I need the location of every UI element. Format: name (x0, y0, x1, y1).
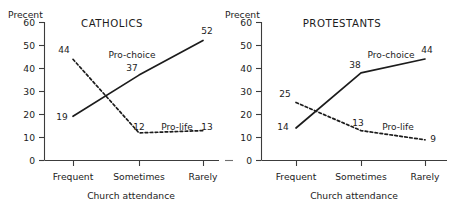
chart-panel-protestants: Precent PROTESTANTS 60 50 40 30 20 1 (225, 0, 450, 209)
y-tick-40: 40 (240, 63, 252, 74)
series-label-pro-life: Pro-life (382, 122, 414, 132)
y-axis-ticks (39, 23, 45, 161)
value-label-pro-choice-frequent: 14 (277, 122, 289, 132)
y-tick-60: 60 (240, 17, 252, 28)
x-axis-ticks (297, 161, 426, 167)
value-label-pro-choice-sometimes: 37 (126, 63, 137, 73)
value-label-pro-life-sometimes: 13 (352, 118, 363, 128)
panel-title-protestants: PROTESTANTS (303, 18, 382, 29)
value-label-pro-choice-rarely: 52 (201, 26, 212, 36)
y-tick-0: 0 (246, 155, 252, 166)
x-label-frequent: Frequent (53, 171, 94, 182)
y-axis-tick-labels: 60 50 40 30 20 10 0 (23, 17, 35, 166)
y-tick-10: 10 (23, 132, 35, 143)
x-label-rarely: Rarely (188, 171, 218, 182)
y-tick-0: 0 (29, 155, 35, 166)
series-label-pro-choice: Pro-choice (109, 50, 156, 60)
x-label-frequent: Frequent (276, 171, 317, 182)
value-label-pro-choice-rarely: 44 (421, 45, 433, 55)
value-label-pro-life-rarely: 13 (201, 122, 212, 132)
y-axis-ticks (256, 23, 262, 161)
protestants-plot: Precent PROTESTANTS 60 50 40 30 20 1 (225, 0, 451, 209)
value-label-pro-life-frequent: 44 (58, 45, 70, 55)
chart-figure: Precent CATHOLICS 60 50 40 30 20 10 (0, 0, 451, 209)
y-tick-20: 20 (240, 109, 252, 120)
series-value-labels-pro-choice: 19 37 52 (56, 26, 212, 122)
y-tick-20: 20 (23, 109, 35, 120)
value-label-pro-life-frequent: 25 (279, 89, 290, 99)
value-label-pro-choice-frequent: 19 (56, 112, 68, 122)
x-label-sometimes: Sometimes (113, 171, 165, 182)
catholics-plot: Precent CATHOLICS 60 50 40 30 20 10 (0, 0, 225, 209)
x-axis-title: Church attendance (310, 190, 398, 201)
y-axis-tick-labels: 60 50 40 30 20 10 0 (240, 17, 252, 166)
y-tick-40: 40 (23, 63, 35, 74)
y-tick-60: 60 (23, 17, 35, 28)
value-label-pro-choice-sometimes: 38 (349, 60, 361, 70)
x-axis-category-labels: Frequent Sometimes Rarely (276, 171, 440, 182)
series-label-pro-choice: Pro-choice (368, 50, 415, 60)
series-label-pro-life: Pro-life (161, 122, 193, 132)
value-label-pro-life-rarely: 9 (430, 134, 436, 144)
x-axis-category-labels: Frequent Sometimes Rarely (53, 171, 218, 182)
value-label-pro-life-sometimes: 12 (133, 122, 144, 132)
x-axis-ticks (74, 161, 204, 167)
series-value-labels-pro-life: 25 13 9 (279, 89, 436, 144)
x-axis-title: Church attendance (87, 190, 175, 201)
x-label-rarely: Rarely (410, 171, 440, 182)
x-label-sometimes: Sometimes (335, 171, 387, 182)
y-tick-30: 30 (23, 86, 35, 97)
y-tick-30: 30 (240, 86, 252, 97)
chart-panel-catholics: Precent CATHOLICS 60 50 40 30 20 10 (0, 0, 225, 209)
y-tick-10: 10 (240, 132, 252, 143)
y-tick-50: 50 (240, 40, 252, 51)
y-tick-50: 50 (23, 40, 35, 51)
panel-title-catholics: CATHOLICS (81, 18, 143, 29)
